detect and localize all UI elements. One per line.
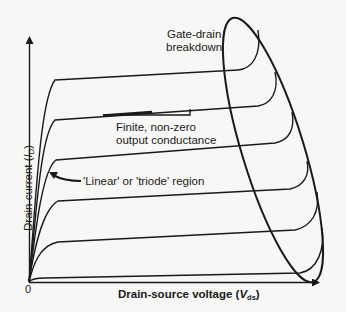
y-axis-label-suffix: ) bbox=[22, 145, 34, 149]
x-axis-label-prefix: Drain-source voltage ( bbox=[118, 288, 239, 300]
gate-drain-line1: Gate-drain bbox=[166, 28, 222, 41]
x-axis-label: Drain-source voltage (Vds) bbox=[118, 288, 260, 304]
gate-drain-line2: breakdown bbox=[166, 41, 222, 54]
origin-label: 0 bbox=[25, 283, 31, 296]
y-axis-label-sub: D bbox=[27, 149, 36, 154]
y-axis-label-prefix: Drain current ( bbox=[22, 157, 34, 231]
y-axis-label-var: I bbox=[22, 154, 34, 157]
x-axis-label-sub: ds bbox=[247, 293, 256, 302]
finite-line2: output conductance bbox=[116, 134, 216, 147]
x-axis-label-var: V bbox=[239, 288, 247, 300]
output-conductance-label: Finite, non-zero output conductance bbox=[116, 121, 216, 147]
finite-line1: Finite, non-zero bbox=[116, 121, 216, 134]
x-axis-label-suffix: ) bbox=[256, 288, 260, 300]
linear-region-label: 'Linear' or 'triode' region bbox=[83, 175, 204, 188]
gate-drain-breakdown-label: Gate-drain breakdown bbox=[166, 28, 222, 54]
y-axis-label: Drain current (ID) bbox=[22, 138, 38, 238]
linear-region-arrow bbox=[53, 175, 81, 181]
